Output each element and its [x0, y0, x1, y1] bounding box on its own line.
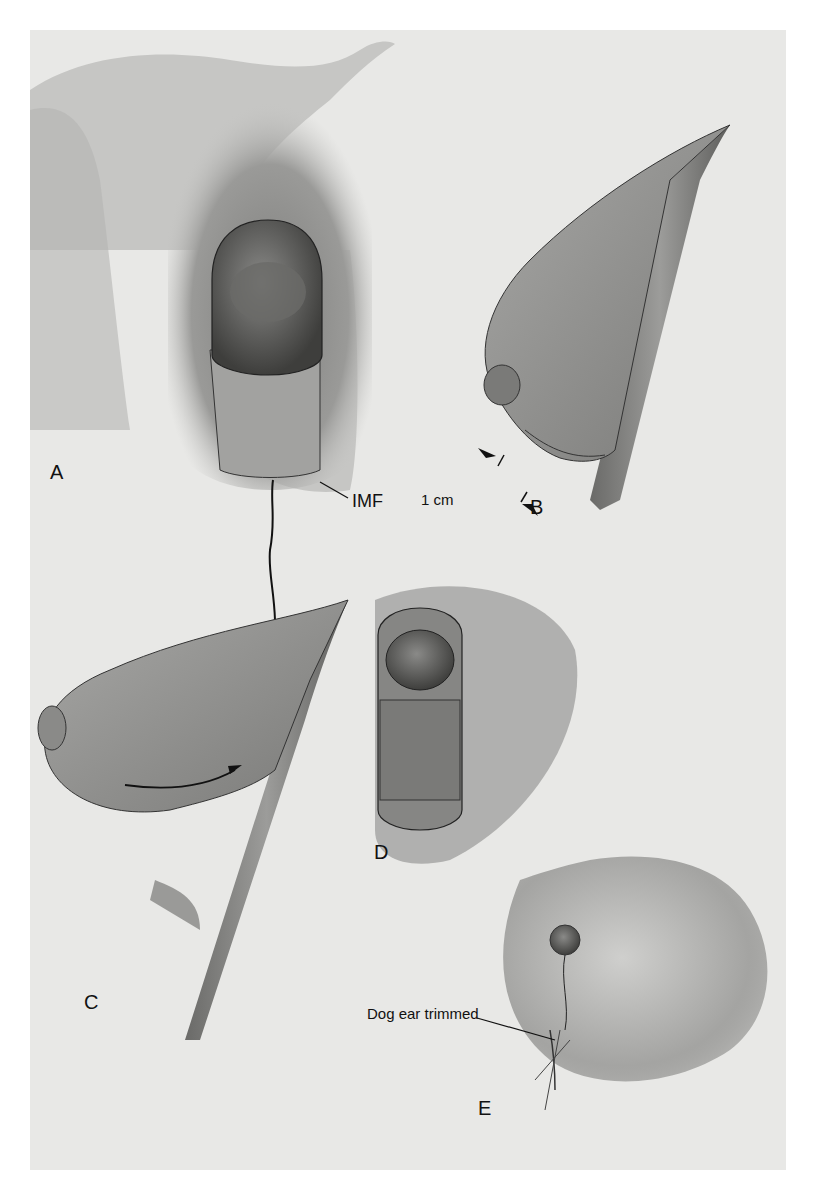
- panel-label-a: A: [50, 462, 63, 482]
- panel-a-artwork: [30, 42, 395, 620]
- imf-annotation: IMF: [352, 492, 383, 510]
- illustration-artwork: [30, 30, 786, 1170]
- panel-c-artwork: [38, 600, 348, 1040]
- panel-b-artwork: [478, 125, 730, 516]
- dog-ear-annotation: Dog ear trimmed: [367, 1006, 479, 1021]
- measurement-annotation: 1 cm: [421, 492, 454, 507]
- panel-label-e: E: [478, 1098, 491, 1118]
- surgical-illustration-figure: A B C D E IMF 1 cm Dog ear trimmed: [30, 30, 786, 1170]
- panel-label-d: D: [374, 842, 388, 862]
- panel-e-artwork: [477, 857, 767, 1110]
- panel-label-c: C: [84, 992, 98, 1012]
- panel-label-b: B: [530, 497, 543, 517]
- panel-d-artwork: [375, 586, 577, 864]
